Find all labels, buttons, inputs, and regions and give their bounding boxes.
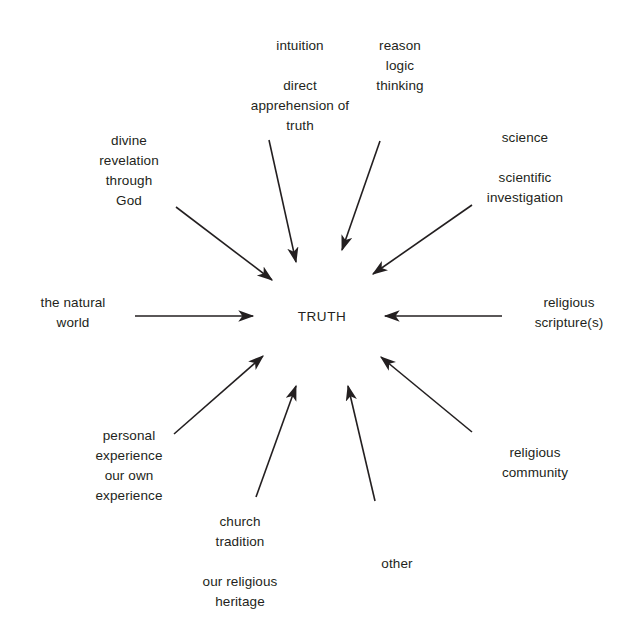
arrow-religious-community xyxy=(381,357,472,432)
node-label-personal-experience: personal experience our own experience xyxy=(74,426,184,506)
arrow-church-tradition xyxy=(256,386,296,497)
arrow-intuition xyxy=(269,140,296,262)
node-label-other: other xyxy=(357,554,437,574)
node-label-intuition: intuition direct apprehension of truth xyxy=(245,36,355,136)
node-label-church-tradition: church tradition our religious heritage xyxy=(180,512,300,612)
node-label-religious-scriptures: religious scripture(s) xyxy=(519,293,619,333)
arrow-reason xyxy=(342,141,380,250)
center-node-label: TRUTH xyxy=(298,309,347,324)
center-node-truth: TRUTH xyxy=(282,307,362,327)
node-label-natural-world: the natural world xyxy=(23,293,123,333)
node-label-divine-revelation: divine revelation through God xyxy=(80,131,178,211)
node-label-religious-community: religious community xyxy=(480,443,590,483)
arrow-divine-revelation xyxy=(176,207,272,280)
arrow-personal-experience xyxy=(174,356,263,434)
node-label-science: science scientific investigation xyxy=(470,128,580,208)
diagram-canvas: TRUTH intuition direct apprehension of t… xyxy=(0,0,631,634)
node-label-reason: reason logic thinking xyxy=(360,36,440,96)
arrow-science xyxy=(373,205,472,274)
arrow-other xyxy=(348,386,375,501)
